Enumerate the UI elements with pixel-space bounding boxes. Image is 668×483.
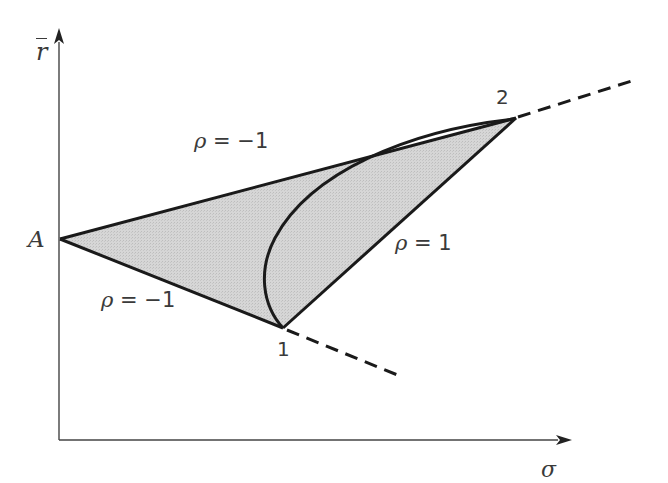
y-axis-arrowhead (54, 28, 64, 44)
diagram-svg (0, 0, 668, 483)
point-1-label: 1 (277, 339, 290, 359)
x-axis-label: σ (541, 459, 556, 481)
rho-value: = −1 (113, 288, 175, 312)
rho-symbol: ρ (194, 129, 206, 153)
rho-symbol: ρ (101, 288, 113, 312)
x-axis-arrowhead (556, 435, 572, 445)
point-2-label: 2 (496, 87, 509, 107)
rho-upper-label: ρ = −1 (194, 131, 268, 152)
point-a-label: A (28, 228, 45, 251)
rho-symbol: ρ (395, 231, 407, 255)
rho-right-label: ρ = 1 (395, 233, 452, 254)
rho-value: = 1 (407, 231, 451, 255)
y-axis-label-text: r (36, 38, 47, 64)
y-axis-label: r (36, 38, 47, 64)
diagram-canvas: r σ A 1 2 ρ = −1 ρ = −1 ρ = 1 (0, 0, 668, 483)
dashed-extension-2 (518, 79, 638, 117)
rho-lower-label: ρ = −1 (101, 290, 175, 311)
dashed-extension-1 (287, 330, 400, 376)
rho-value: = −1 (206, 129, 268, 153)
